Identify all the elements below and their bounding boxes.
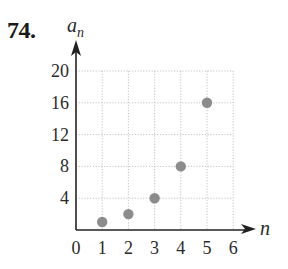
x-tick-label: 5 (203, 238, 212, 258)
x-axis-label: n (260, 217, 270, 239)
y-tick-label: 20 (51, 61, 69, 81)
grid-lines (76, 71, 233, 230)
x-tick-label: 3 (150, 238, 159, 258)
data-point (149, 193, 159, 203)
data-point (97, 217, 107, 227)
scatter-chart: 0123456 48121620 an n (0, 0, 288, 269)
x-tick-label: 6 (229, 238, 238, 258)
data-point (202, 98, 212, 108)
x-axis-arrow-icon (241, 224, 256, 234)
data-point (123, 209, 133, 219)
x-tick-label: 2 (124, 238, 133, 258)
x-tick-label: 4 (176, 238, 185, 258)
x-tick-label: 0 (72, 238, 81, 258)
x-tick-label: 1 (98, 238, 107, 258)
axes (71, 40, 256, 234)
y-axis-label: an (67, 14, 84, 40)
x-tick-labels: 0123456 (72, 238, 238, 258)
data-point (176, 161, 186, 171)
y-tick-label: 12 (51, 125, 69, 145)
y-tick-label: 8 (60, 156, 69, 176)
y-tick-label: 16 (51, 93, 69, 113)
y-tick-labels: 48121620 (51, 61, 69, 208)
y-tick-label: 4 (60, 188, 69, 208)
data-points (97, 98, 212, 228)
